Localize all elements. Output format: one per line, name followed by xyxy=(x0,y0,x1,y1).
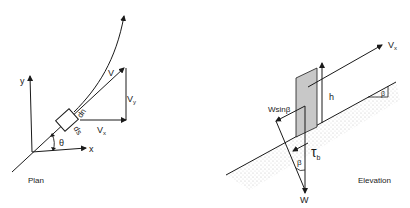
velocity-label: V xyxy=(108,68,114,78)
h-label: h xyxy=(329,92,334,102)
elevation-view: Vx h Wsinβ β τb W β Elevation xyxy=(226,40,400,205)
plan-view: y x θ dn ds Vx Vy V Plan xyxy=(12,16,136,185)
theta-label: θ xyxy=(59,138,64,148)
elevation-caption: Elevation xyxy=(358,176,391,185)
vy-label: Vy xyxy=(127,94,136,105)
ds-label: ds xyxy=(72,124,84,136)
x-axis xyxy=(32,148,86,152)
diagram-canvas: y x θ dn ds Vx Vy V Plan xyxy=(0,0,410,208)
y-axis-label: y xyxy=(20,76,25,86)
beta-arc xyxy=(296,168,305,171)
vx-label: Vx xyxy=(97,125,106,136)
x-axis-label: x xyxy=(89,144,94,154)
wsin-label: Wsinβ xyxy=(268,105,291,114)
elevation-vx-label: Vx xyxy=(388,40,397,51)
plan-caption: Plan xyxy=(28,176,44,185)
beta-label: β xyxy=(297,158,302,167)
w-label: W xyxy=(300,195,309,205)
elevation-vx-arrow xyxy=(308,45,382,87)
streamline-curve xyxy=(74,16,124,112)
water-column xyxy=(296,68,317,137)
y-axis xyxy=(30,76,32,152)
slope-beta-label: β xyxy=(381,90,385,98)
